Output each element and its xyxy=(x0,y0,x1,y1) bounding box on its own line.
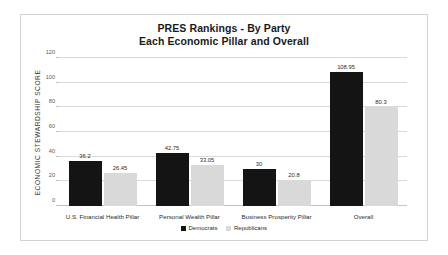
bar-slot: 42.75 xyxy=(156,58,189,206)
bar[interactable] xyxy=(104,173,137,206)
x-axis-category-label: Overall xyxy=(310,213,417,220)
bar-group-bars: 42.7533.05 xyxy=(146,58,233,206)
y-axis-tick-label: 100 xyxy=(46,74,55,80)
bar-value-label: 20.8 xyxy=(278,172,311,178)
legend-swatch-icon xyxy=(181,226,186,231)
chart-legend: DemocratsRepublicans xyxy=(21,225,427,231)
bar-value-label: 42.75 xyxy=(156,145,189,151)
bar-group-bars: 108.9580.3 xyxy=(320,58,407,206)
bar-group-bars: 3020.8 xyxy=(233,58,320,206)
bar[interactable] xyxy=(278,180,311,206)
plot-area: 020406080100120 36.226.45U.S. Financial … xyxy=(59,58,407,206)
y-axis-tick-label: 0 xyxy=(52,197,55,203)
legend-label: Republicans xyxy=(234,225,267,231)
bar-slot: 36.2 xyxy=(69,58,102,206)
bar[interactable] xyxy=(365,107,398,206)
legend-swatch-icon xyxy=(226,226,231,231)
bar[interactable] xyxy=(156,153,189,206)
y-axis-title-text: ECONOMIC STEWARDSHIP SCORE xyxy=(35,70,42,196)
bar-slot: 80.3 xyxy=(365,58,398,206)
legend-item[interactable]: Democrats xyxy=(181,225,218,231)
bar[interactable] xyxy=(243,169,276,206)
bar[interactable] xyxy=(330,72,363,206)
bar-value-label: 80.3 xyxy=(365,99,398,105)
y-axis-tick-label: 120 xyxy=(46,49,55,55)
bar-value-label: 33.05 xyxy=(191,157,224,163)
chart-title-line-1: PRES Rankings - By Party xyxy=(157,22,290,34)
chart-title-line-2: Each Economic Pillar and Overall xyxy=(21,35,427,48)
legend-label: Democrats xyxy=(188,225,217,231)
bar-slot: 30 xyxy=(243,58,276,206)
bar-group: 42.7533.05Personal Wealth Pillar xyxy=(146,58,233,206)
bar-groups: 36.226.45U.S. Financial Health Pillar42.… xyxy=(59,58,407,206)
bar-slot: 26.45 xyxy=(104,58,137,206)
bar-value-label: 108.95 xyxy=(330,64,363,70)
legend-item[interactable]: Republicans xyxy=(226,225,267,231)
bar-slot: 108.95 xyxy=(330,58,363,206)
bar-value-label: 36.2 xyxy=(69,153,102,159)
y-axis-tick-label: 60 xyxy=(49,123,55,129)
bar-slot: 33.05 xyxy=(191,58,224,206)
bar[interactable] xyxy=(69,161,102,206)
y-axis-tick-label: 80 xyxy=(49,98,55,104)
y-axis-tick-label: 20 xyxy=(49,172,55,178)
bar-group: 108.9580.3Overall xyxy=(320,58,407,206)
y-axis-tick-label: 40 xyxy=(49,148,55,154)
bar[interactable] xyxy=(191,165,224,206)
chart-title: PRES Rankings - By Party Each Economic P… xyxy=(21,22,427,47)
bar-slot: 20.8 xyxy=(278,58,311,206)
bar-value-label: 26.45 xyxy=(104,165,137,171)
bar-group-bars: 36.226.45 xyxy=(59,58,146,206)
bar-group: 36.226.45U.S. Financial Health Pillar xyxy=(59,58,146,206)
chart-container: PRES Rankings - By Party Each Economic P… xyxy=(20,14,428,241)
y-axis-title: ECONOMIC STEWARDSHIP SCORE xyxy=(31,60,45,205)
bar-group: 3020.8Business Prosperity Pillar xyxy=(233,58,320,206)
bar-value-label: 30 xyxy=(243,161,276,167)
